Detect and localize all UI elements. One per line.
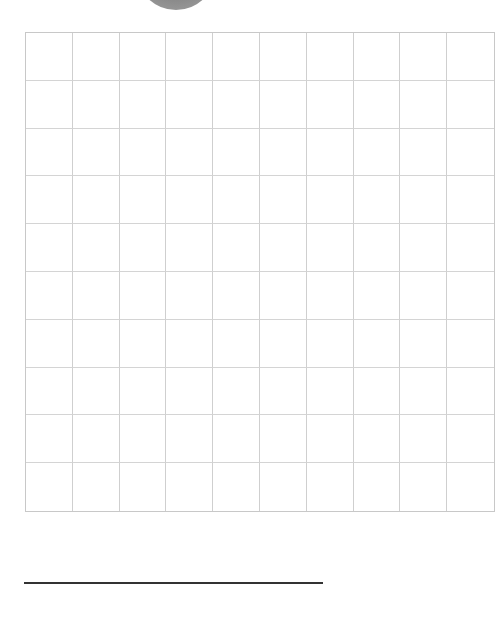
grid-cell xyxy=(73,320,120,368)
grid-cell xyxy=(120,320,167,368)
grid-cell xyxy=(166,224,213,272)
grid-cell xyxy=(120,129,167,177)
grid-cell xyxy=(26,129,73,177)
grid-cell xyxy=(354,463,401,511)
grid-cell xyxy=(260,224,307,272)
grid-cell xyxy=(307,129,354,177)
grid-cell xyxy=(26,224,73,272)
grid-cell xyxy=(400,320,447,368)
grid-cell xyxy=(120,415,167,463)
grid-cell xyxy=(400,129,447,177)
grid-cell xyxy=(447,320,494,368)
grid-cell xyxy=(26,320,73,368)
grid-cell xyxy=(166,463,213,511)
grid-cell xyxy=(166,176,213,224)
grid-cell xyxy=(120,81,167,129)
grid-cell xyxy=(307,81,354,129)
grid-cell xyxy=(354,129,401,177)
worksheet-page xyxy=(0,0,496,630)
grid-cell xyxy=(213,415,260,463)
grid-cell xyxy=(447,33,494,81)
grid-cell xyxy=(213,224,260,272)
grid-cell xyxy=(260,320,307,368)
grid-cell xyxy=(260,272,307,320)
grid-cell xyxy=(400,33,447,81)
answer-line xyxy=(24,582,323,584)
grid-cell xyxy=(400,176,447,224)
grid-cell xyxy=(166,33,213,81)
grid-cell xyxy=(307,33,354,81)
grid-cell xyxy=(447,272,494,320)
grid-cell xyxy=(26,368,73,416)
grid-cell xyxy=(307,368,354,416)
grid-cell xyxy=(260,368,307,416)
grid-cell xyxy=(166,81,213,129)
grid-cell xyxy=(73,415,120,463)
grid-cell xyxy=(307,320,354,368)
grid-cell xyxy=(354,368,401,416)
grid-cell xyxy=(120,368,167,416)
grid-cell xyxy=(166,129,213,177)
grid-cell xyxy=(120,176,167,224)
grid-cell xyxy=(354,81,401,129)
grid-cell xyxy=(166,415,213,463)
grid-cell xyxy=(26,272,73,320)
grid-cell xyxy=(120,272,167,320)
grid-cell xyxy=(447,81,494,129)
graph-grid xyxy=(25,32,495,512)
grid-cell xyxy=(213,320,260,368)
grid-cell xyxy=(400,272,447,320)
grid-cell xyxy=(354,176,401,224)
grid-cell xyxy=(260,415,307,463)
circle-shape xyxy=(136,0,216,10)
grid-cell xyxy=(213,272,260,320)
grid-cell xyxy=(26,415,73,463)
grid-cell xyxy=(260,129,307,177)
grid-cell xyxy=(166,320,213,368)
grid-cell xyxy=(354,224,401,272)
grid-cell xyxy=(120,33,167,81)
grid-cell xyxy=(73,33,120,81)
grid-cell xyxy=(26,33,73,81)
grid-cell xyxy=(307,463,354,511)
grid-cell xyxy=(213,368,260,416)
grid-cell xyxy=(400,224,447,272)
grid-cell xyxy=(447,415,494,463)
grid-cell xyxy=(400,415,447,463)
grid-cell xyxy=(307,224,354,272)
grid-cell xyxy=(307,415,354,463)
grid-cell xyxy=(354,33,401,81)
grid-cell xyxy=(26,81,73,129)
grid-cell xyxy=(213,129,260,177)
grid-cell xyxy=(354,415,401,463)
grid-cell xyxy=(447,224,494,272)
grid-cell xyxy=(354,320,401,368)
grid-cell xyxy=(447,176,494,224)
grid-cell xyxy=(213,33,260,81)
grid-cell xyxy=(260,33,307,81)
grid-cell xyxy=(213,463,260,511)
grid-cell xyxy=(447,463,494,511)
grid-cell xyxy=(260,176,307,224)
grid-cell xyxy=(73,463,120,511)
grid-cell xyxy=(260,463,307,511)
grid-cell xyxy=(400,368,447,416)
grid-cell xyxy=(26,176,73,224)
grid-cell xyxy=(73,129,120,177)
grid-cell xyxy=(260,81,307,129)
grid-cell xyxy=(213,81,260,129)
grid-cell xyxy=(354,272,401,320)
grid-cell xyxy=(166,368,213,416)
grid-cell xyxy=(447,368,494,416)
grid-cell xyxy=(120,463,167,511)
grid-cell xyxy=(120,224,167,272)
grid-cell xyxy=(213,176,260,224)
grid-cell xyxy=(73,224,120,272)
grid-cell xyxy=(166,272,213,320)
grid-cell xyxy=(447,129,494,177)
grid-cell xyxy=(26,463,73,511)
grid-cell xyxy=(73,272,120,320)
grid-cell xyxy=(400,81,447,129)
grid-cell xyxy=(73,176,120,224)
grid-cell xyxy=(73,81,120,129)
